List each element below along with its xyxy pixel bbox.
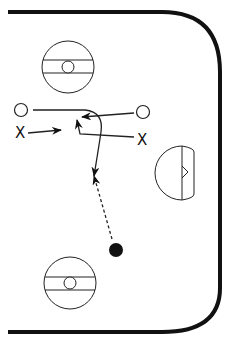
skate-path-x1 — [28, 130, 61, 133]
goal-net — [182, 146, 194, 200]
skate-path-x2 — [77, 120, 134, 137]
faceoff-circle-top — [42, 41, 94, 93]
player-o1[interactable] — [15, 104, 28, 117]
faceoff-circle-bottom — [44, 257, 96, 309]
faceoff-dot-top — [62, 61, 74, 73]
player-o2[interactable] — [137, 106, 150, 119]
goal-crease-notch — [182, 166, 188, 178]
play-diagram: X X — [0, 0, 242, 348]
goal-crease — [155, 146, 194, 200]
player-x2[interactable]: X — [137, 131, 147, 149]
puck[interactable] — [109, 243, 123, 257]
skate-path-o2 — [82, 113, 134, 117]
player-x1[interactable]: X — [15, 124, 25, 142]
faceoff-dot-bottom — [64, 277, 76, 289]
pass-path — [94, 176, 112, 239]
skate-path-o1 — [33, 110, 101, 176]
